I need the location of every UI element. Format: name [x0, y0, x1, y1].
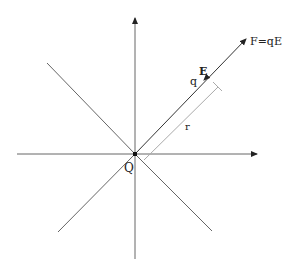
distance-label: r [185, 121, 190, 132]
source-charge-dot [133, 152, 137, 156]
field-line-upper-left [47, 63, 135, 154]
field-label: E [199, 65, 207, 78]
distance-measure-line [144, 87, 218, 160]
test-charge-label: q [190, 75, 197, 88]
distance-measure-tick [213, 82, 222, 91]
field-line-lower-right [135, 154, 212, 231]
source-charge-label: Q [124, 161, 134, 175]
field-diagram: F=qE E q r Q [0, 0, 294, 274]
field-line-upper-right [135, 39, 246, 154]
force-label: F=qE [250, 35, 282, 48]
